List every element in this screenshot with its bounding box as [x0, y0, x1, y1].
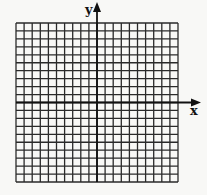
y-axis-arrow-icon	[93, 2, 101, 12]
coordinate-grid-figure: y x	[0, 0, 207, 195]
x-axis-label: x	[190, 104, 198, 117]
coordinate-grid	[0, 0, 207, 195]
y-axis-label: y	[85, 3, 93, 16]
